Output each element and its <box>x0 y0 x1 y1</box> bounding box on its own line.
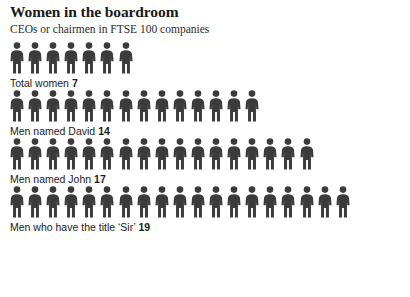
stat-row-value: 14 <box>98 125 110 137</box>
person-icon <box>155 186 169 218</box>
person-icon <box>28 186 42 218</box>
person-icon <box>82 42 96 74</box>
stat-row-value: 7 <box>72 77 78 89</box>
person-icon <box>300 186 314 218</box>
person-icon <box>227 138 241 170</box>
person-icon <box>137 186 151 218</box>
person-icon <box>318 186 332 218</box>
chart-header: Women in the boardroom CEOs or chairmen … <box>10 3 410 36</box>
person-icon <box>46 90 60 122</box>
person-icon <box>209 138 223 170</box>
pictogram-figures <box>10 138 410 170</box>
stat-row-men-with-title-sir: Men who have the title ‘Sir’ 19 <box>10 186 410 234</box>
person-icon <box>64 138 78 170</box>
person-icon <box>64 42 78 74</box>
stat-row-label-text: Men named John <box>10 173 91 185</box>
person-icon <box>245 186 259 218</box>
person-icon <box>263 186 277 218</box>
stat-row-label: Men named David 14 <box>10 125 410 138</box>
stat-row-label-text: Men named David <box>10 125 95 137</box>
stat-row-label-text: Total women <box>10 77 69 89</box>
person-icon <box>137 90 151 122</box>
person-icon <box>191 138 205 170</box>
person-icon <box>82 186 96 218</box>
person-icon <box>173 186 187 218</box>
person-icon <box>28 42 42 74</box>
person-icon <box>155 90 169 122</box>
pictogram-figures <box>10 42 410 74</box>
stat-row-label: Total women 7 <box>10 77 410 90</box>
person-icon <box>191 90 205 122</box>
person-icon <box>119 90 133 122</box>
person-icon <box>137 138 151 170</box>
pictogram-figures <box>10 186 410 218</box>
person-icon <box>281 138 295 170</box>
person-icon <box>82 138 96 170</box>
stat-row-label: Men who have the title ‘Sir’ 19 <box>10 221 410 234</box>
person-icon <box>100 90 114 122</box>
person-icon <box>119 42 133 74</box>
person-icon <box>64 90 78 122</box>
person-icon <box>209 186 223 218</box>
person-icon <box>245 90 259 122</box>
person-icon <box>28 90 42 122</box>
stat-row-value: 17 <box>94 173 106 185</box>
person-icon <box>227 90 241 122</box>
pictogram-rows: Total women 7 Men named David 14 Men nam… <box>10 42 410 234</box>
person-icon <box>64 186 78 218</box>
person-icon <box>173 138 187 170</box>
stat-row-label: Men named John 17 <box>10 173 410 186</box>
person-icon <box>173 90 187 122</box>
stat-row-total-women: Total women 7 <box>10 42 410 90</box>
person-icon <box>191 186 205 218</box>
stat-row-label-text: Men who have the title ‘Sir’ <box>10 221 135 233</box>
person-icon <box>100 138 114 170</box>
person-icon <box>82 90 96 122</box>
person-icon <box>10 138 24 170</box>
person-icon <box>227 186 241 218</box>
person-icon <box>119 138 133 170</box>
stat-row-value: 19 <box>138 221 150 233</box>
person-icon <box>28 138 42 170</box>
person-icon <box>10 42 24 74</box>
person-icon <box>100 186 114 218</box>
person-icon <box>155 138 169 170</box>
page-title: Women in the boardroom <box>10 3 410 20</box>
person-icon <box>300 138 314 170</box>
stat-row-men-named-john: Men named John 17 <box>10 138 410 186</box>
person-icon <box>209 90 223 122</box>
person-icon <box>46 186 60 218</box>
person-icon <box>336 186 350 218</box>
person-icon <box>263 138 277 170</box>
pictogram-figures <box>10 90 410 122</box>
chart-subtitle: CEOs or chairmen in FTSE 100 companies <box>10 22 410 36</box>
infographic-women-in-the-boardroom: Women in the boardroom CEOs or chairmen … <box>0 0 410 297</box>
person-icon <box>46 138 60 170</box>
person-icon <box>46 42 60 74</box>
person-icon <box>10 90 24 122</box>
person-icon <box>100 42 114 74</box>
person-icon <box>10 186 24 218</box>
person-icon <box>281 186 295 218</box>
person-icon <box>245 138 259 170</box>
person-icon <box>119 186 133 218</box>
stat-row-men-named-david: Men named David 14 <box>10 90 410 138</box>
